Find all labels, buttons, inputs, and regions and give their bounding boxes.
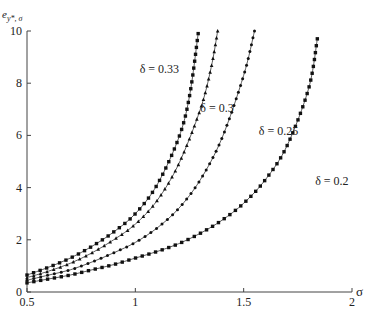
data-marker — [127, 258, 130, 261]
data-marker — [143, 202, 146, 205]
data-marker — [267, 173, 270, 176]
data-marker — [39, 279, 42, 282]
curve-label: δ = 0.25 — [259, 124, 298, 138]
data-marker — [121, 260, 124, 263]
data-marker — [141, 254, 144, 257]
data-marker — [185, 143, 189, 147]
y-tick-label: 4 — [16, 181, 22, 195]
data-marker — [133, 212, 136, 215]
data-marker — [38, 269, 41, 272]
data-marker — [180, 241, 183, 244]
data-marker — [215, 150, 218, 153]
data-marker — [174, 169, 178, 173]
data-marker — [234, 209, 237, 212]
data-marker — [205, 168, 208, 171]
data-marker — [164, 166, 167, 169]
data-marker — [66, 274, 69, 277]
data-marker — [123, 222, 126, 225]
data-marker — [60, 275, 63, 278]
data-marker — [211, 156, 214, 159]
data-marker — [237, 91, 240, 94]
data-marker — [166, 218, 169, 221]
data-marker — [53, 276, 56, 279]
data-marker — [95, 242, 98, 245]
data-marker — [303, 98, 306, 101]
curve-labels: δ = 0.33δ = 0.3δ = 0.25δ = 0.2 — [140, 62, 349, 188]
data-marker — [73, 272, 76, 275]
data-marker — [174, 243, 177, 246]
data-marker — [160, 248, 163, 251]
data-marker — [64, 258, 67, 261]
y-tick-label: 0 — [16, 285, 22, 299]
data-marker — [271, 168, 274, 171]
data-marker — [138, 207, 141, 210]
data-marker — [134, 256, 137, 259]
data-marker — [248, 50, 251, 53]
data-marker — [106, 254, 109, 257]
data-marker — [210, 63, 214, 67]
data-marker — [216, 29, 220, 33]
data-marker — [313, 58, 316, 61]
data-marker — [167, 246, 170, 249]
data-marker — [86, 262, 89, 265]
data-marker — [144, 235, 147, 238]
y-tick-label: 10 — [10, 24, 22, 38]
data-marker — [245, 64, 248, 67]
data-marker — [193, 60, 196, 63]
data-marker — [180, 128, 183, 131]
data-marker — [185, 108, 188, 111]
data-marker — [120, 232, 124, 236]
data-marker — [314, 51, 317, 54]
data-marker — [67, 269, 70, 272]
data-marker — [282, 150, 285, 153]
data-marker — [186, 238, 189, 241]
curve-label: δ = 0.33 — [140, 62, 179, 76]
data-marker — [128, 217, 131, 220]
data-marker — [154, 250, 157, 253]
data-marker — [184, 114, 187, 117]
data-marker — [170, 154, 173, 157]
data-marker — [214, 43, 218, 47]
data-marker — [189, 192, 192, 195]
data-marker — [249, 195, 252, 198]
data-marker — [208, 162, 211, 165]
data-marker — [195, 46, 198, 49]
data-marker — [263, 179, 266, 182]
data-marker — [254, 190, 257, 193]
data-marker — [178, 134, 181, 137]
data-marker — [119, 248, 122, 251]
data-marker — [208, 70, 212, 74]
data-marker — [275, 162, 278, 165]
curve-label: δ = 0.2 — [315, 174, 348, 188]
data-marker — [112, 251, 115, 254]
data-marker — [201, 174, 204, 177]
data-marker — [118, 226, 121, 229]
data-marker — [239, 84, 242, 87]
data-marker — [114, 236, 118, 240]
data-marker — [243, 71, 246, 74]
data-marker — [196, 39, 199, 42]
x-tick-label: 2 — [349, 295, 355, 309]
data-marker — [182, 150, 186, 154]
data-marker — [194, 53, 197, 56]
data-marker — [285, 144, 288, 147]
data-marker — [149, 231, 152, 234]
data-marker — [93, 260, 96, 263]
data-marker — [108, 240, 112, 244]
data-marker — [181, 203, 184, 206]
data-marker — [46, 277, 49, 280]
data-marker — [190, 80, 193, 83]
data-marker — [51, 264, 54, 267]
data-marker — [170, 175, 174, 179]
data-marker — [96, 247, 100, 251]
data-marker — [71, 255, 74, 258]
data-marker — [228, 117, 231, 120]
data-marker — [114, 262, 117, 265]
data-marker — [207, 77, 211, 81]
data-marker — [199, 232, 202, 235]
x-tick-label: 1.5 — [236, 295, 251, 309]
data-marker — [220, 137, 223, 140]
data-marker — [312, 65, 315, 68]
data-marker — [77, 252, 80, 255]
data-marker — [112, 230, 115, 233]
